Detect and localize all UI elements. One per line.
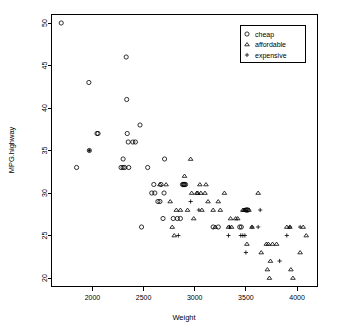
y-tick-label: 45: [41, 62, 48, 70]
y-tick-label: 30: [41, 189, 48, 197]
x-tick-label: 3000: [187, 294, 203, 301]
legend-label-cheap[interactable]: cheap: [255, 31, 274, 39]
y-tick-label: 50: [41, 19, 48, 27]
x-tick-label: 2000: [85, 294, 101, 301]
chart-canvas: 20002500300035004000 20253035404550 Weig…: [0, 0, 337, 332]
legend[interactable]: cheapaffordableexpensive: [241, 26, 306, 63]
y-tick-label: 20: [41, 274, 48, 282]
x-tick-label: 4000: [289, 294, 305, 301]
x-tick-label: 2500: [136, 294, 152, 301]
legend-label-expensive[interactable]: expensive: [255, 52, 287, 60]
legend-label-affordable[interactable]: affordable: [255, 41, 286, 48]
x-axis-title: Weight: [172, 313, 196, 322]
data-point: [88, 149, 90, 151]
y-tick-label: 40: [41, 104, 48, 112]
y-tick-label: 25: [41, 232, 48, 240]
y-tick-label: 35: [41, 147, 48, 155]
scatter-plot-figure: 20002500300035004000 20253035404550 Weig…: [0, 0, 337, 332]
y-axis-title: MPG.highway: [7, 126, 16, 173]
x-tick-label: 3500: [238, 294, 254, 301]
